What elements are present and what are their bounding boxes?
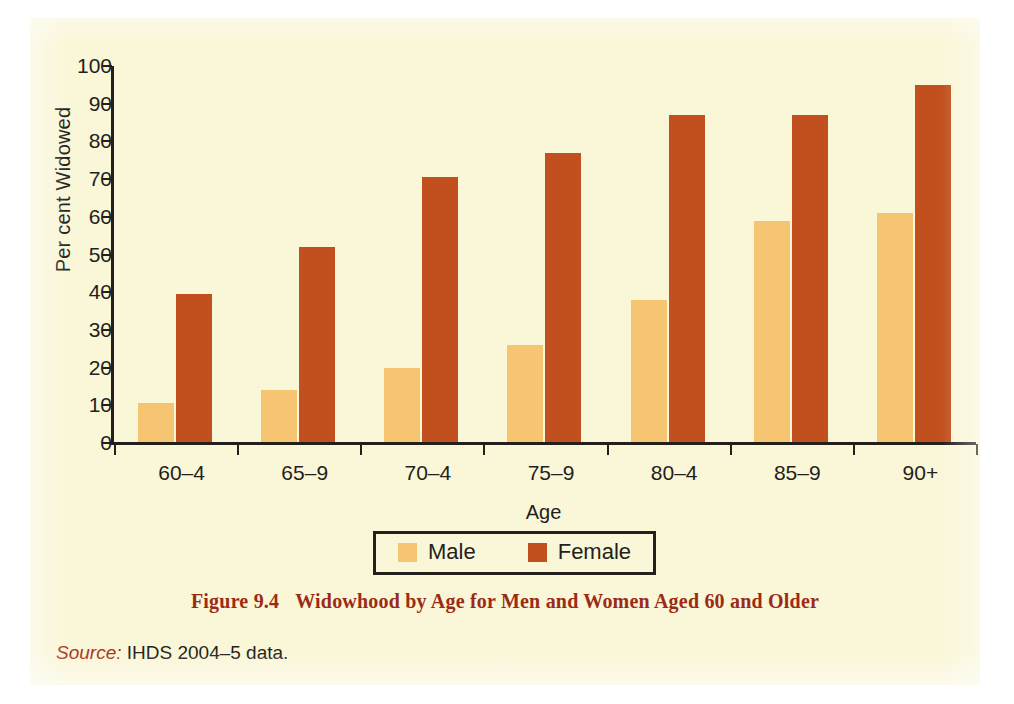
figure-caption: Figure 9.4Widowhood by Age for Men and W… xyxy=(30,590,980,613)
y-axis-title: Per cent Widowed xyxy=(52,85,75,295)
bar-female xyxy=(792,115,828,443)
legend-item-female: Female xyxy=(528,541,631,563)
x-axis-tick-label: 80–4 xyxy=(614,462,734,483)
source-text: IHDS 2004–5 data. xyxy=(127,642,289,663)
figure-caption-text: Widowhood by Age for Men and Women Aged … xyxy=(295,590,819,612)
bar-female xyxy=(299,247,335,443)
bar-group xyxy=(483,66,606,443)
x-axis-tick-label: 65–9 xyxy=(245,462,365,483)
plot-area xyxy=(114,66,976,443)
bar-group xyxy=(730,66,853,443)
x-axis-tick-label: 75–9 xyxy=(491,462,611,483)
x-axis-tick-label: 90+ xyxy=(860,462,980,483)
legend-label: Female xyxy=(558,541,631,563)
figure-source: Source: IHDS 2004–5 data. xyxy=(56,642,288,664)
x-axis-tick xyxy=(853,444,855,455)
x-axis-tick xyxy=(976,444,978,455)
legend-swatch-icon xyxy=(398,543,417,562)
x-axis-tick-label: 60–4 xyxy=(122,462,242,483)
legend-item-male: Male xyxy=(398,541,476,563)
bar-male xyxy=(384,368,420,443)
source-label: Source: xyxy=(56,642,121,663)
bar-male xyxy=(138,403,174,443)
x-axis-tick xyxy=(607,444,609,455)
bar-male xyxy=(507,345,543,443)
bar-group xyxy=(853,66,976,443)
x-axis-tick xyxy=(237,444,239,455)
x-axis-line xyxy=(111,442,976,445)
x-axis-tick xyxy=(114,444,116,455)
bar-male xyxy=(877,213,913,443)
x-axis-tick-label: 70–4 xyxy=(368,462,488,483)
x-axis-tick-label: 85–9 xyxy=(737,462,857,483)
figure-number: Figure 9.4 xyxy=(191,590,279,612)
chart-legend: MaleFemale xyxy=(373,531,656,575)
y-axis-tick-label: 0 xyxy=(66,432,112,453)
figure-page: 0102030405060708090100 Per cent Widowed … xyxy=(30,18,980,685)
y-axis-tick-label: 30 xyxy=(66,319,112,340)
bar-male xyxy=(754,221,790,443)
bar-chart: 0102030405060708090100 Per cent Widowed … xyxy=(30,18,980,685)
bar-group xyxy=(114,66,237,443)
legend-swatch-icon xyxy=(528,543,547,562)
bar-female xyxy=(669,115,705,443)
y-axis-tick-label: 20 xyxy=(66,357,112,378)
bar-female xyxy=(915,85,951,443)
x-axis-tick xyxy=(483,444,485,455)
y-axis-tick-label: 100 xyxy=(66,55,112,76)
x-axis-tick xyxy=(360,444,362,455)
x-axis-tick xyxy=(730,444,732,455)
bar-female xyxy=(422,177,458,443)
x-axis-title: Age xyxy=(111,501,976,524)
bar-group xyxy=(607,66,730,443)
bar-female xyxy=(176,294,212,443)
y-axis-tick-label: 10 xyxy=(66,394,112,415)
bar-male xyxy=(631,300,667,443)
bar-male xyxy=(261,390,297,443)
bar-group xyxy=(237,66,360,443)
bar-female xyxy=(545,153,581,443)
legend-label: Male xyxy=(428,541,476,563)
bar-group xyxy=(360,66,483,443)
